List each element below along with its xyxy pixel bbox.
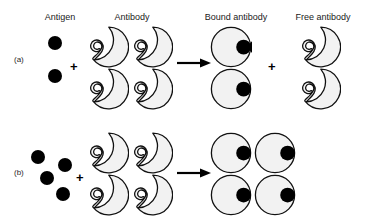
plus-operator: + [70, 60, 78, 73]
antibody-shape [87, 174, 129, 216]
arrow-right-icon [176, 167, 212, 179]
antigen-dot [48, 36, 62, 50]
bound-antibody-shape [254, 174, 296, 216]
antibody-shape [131, 174, 173, 216]
column-label-antibody: Antibody [100, 12, 164, 23]
antigen-dot [56, 187, 70, 201]
antigen-dot [31, 150, 45, 164]
bound-antibody-shape [210, 174, 252, 216]
arrow-right-icon [176, 57, 212, 69]
antibody-shape [131, 26, 173, 68]
antigen-dot [58, 158, 72, 172]
bound-antibody-shape [210, 132, 252, 174]
bound-antibody-shape [254, 132, 296, 174]
antibody-shape [131, 132, 173, 174]
antibody-shape [87, 132, 129, 174]
plus-operator: + [76, 171, 84, 184]
column-label-bound-antibody: Bound antibody [196, 12, 276, 23]
free-antibody-shape [299, 68, 341, 110]
free-antibody-shape [299, 26, 341, 68]
antigen-dot [48, 69, 62, 83]
antibody-shape [131, 68, 173, 110]
figure-canvas: Antigen Antibody Bound antibody Free ant… [0, 0, 369, 219]
antibody-shape [87, 26, 129, 68]
column-label-free-antibody: Free antibody [285, 12, 361, 23]
plus-operator: + [268, 60, 276, 73]
column-label-antigen: Antigen [30, 12, 90, 23]
antigen-dot [40, 171, 54, 185]
row-label-a: (a) [14, 55, 24, 65]
row-label-b: (b) [14, 168, 24, 178]
antibody-shape [87, 68, 129, 110]
bound-antibody-shape [210, 68, 252, 110]
bound-antibody-shape [210, 26, 252, 68]
